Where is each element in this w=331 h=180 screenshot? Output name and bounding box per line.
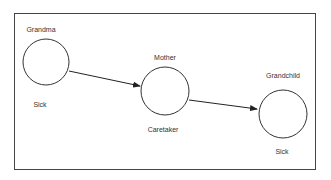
node-title-mother: Mother	[154, 54, 176, 61]
node-status-grandma: Sick	[33, 101, 46, 108]
node-circle-grandma	[23, 39, 69, 85]
node-circle-grandchild	[259, 90, 307, 138]
node-status-grandchild: Sick	[275, 148, 288, 155]
edge-arrow-mother-to-grandchild	[189, 100, 257, 109]
node-status-mother: Caretaker	[148, 126, 179, 133]
node-title-grandma: Grandma	[26, 26, 55, 33]
edge-arrow-grandma-to-mother	[69, 71, 140, 86]
node-circle-mother	[141, 67, 189, 115]
node-title-grandchild: Grandchild	[266, 72, 300, 79]
